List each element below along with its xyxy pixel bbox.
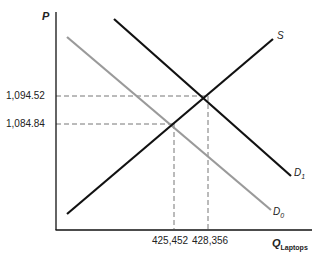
supply-label: S (277, 30, 284, 41)
y-tick-high: 1,094.52 (6, 90, 45, 101)
demand-d0-label: D0 (273, 206, 284, 219)
y-axis-label: P (42, 10, 49, 22)
x-axis-label-main: Q (272, 237, 281, 249)
x-tick-high: 428,356 (192, 235, 228, 246)
x-tick-low: 425,452 (152, 235, 188, 246)
demand-d1-label: D1 (294, 167, 305, 180)
supply-demand-chart: P 1,094.52 1,084.84 425,452 428,356 QLap… (0, 0, 317, 255)
y-tick-low: 1,084.84 (6, 118, 45, 129)
demand-d0-label-sub: 0 (280, 212, 284, 219)
x-axis-label: QLaptops (272, 237, 308, 251)
supply-curve (67, 39, 273, 214)
demand-d1-label-sub: 1 (301, 173, 305, 180)
x-axis-label-sub: Laptops (281, 244, 308, 251)
chart-canvas (0, 0, 317, 255)
